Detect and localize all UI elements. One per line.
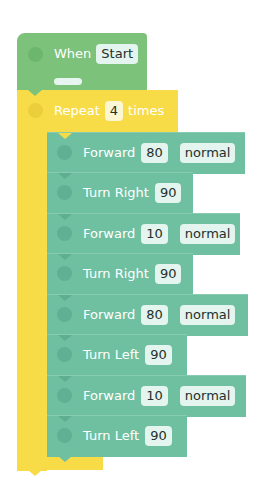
block-handle-icon — [57, 266, 72, 281]
speed-dropdown[interactable]: normal — [180, 224, 236, 244]
connector-notch-icon — [58, 173, 72, 179]
block-handle-icon — [28, 47, 43, 62]
step-label: Turn Left — [83, 345, 139, 365]
speed-dropdown[interactable]: normal — [180, 143, 236, 163]
step-label: Turn Left — [83, 426, 139, 446]
connector-notch-icon — [58, 416, 72, 422]
step-value-field[interactable]: 90 — [155, 183, 182, 203]
when-label: When — [54, 44, 91, 64]
speed-dropdown[interactable]: normal — [180, 305, 236, 325]
block-handle-icon — [57, 428, 72, 443]
connector-notch-icon — [58, 295, 72, 301]
step-block[interactable]: Turn Right90 — [47, 253, 193, 295]
hat-collapse-pill[interactable] — [54, 78, 82, 85]
step-block[interactable]: Forward80normal — [47, 294, 248, 336]
connector-tab-icon — [58, 456, 72, 462]
step-value-field[interactable]: 90 — [155, 264, 182, 284]
speed-dropdown[interactable]: normal — [180, 386, 236, 406]
connector-notch-icon — [58, 254, 72, 260]
connector-tab-icon — [28, 470, 42, 476]
connector-notch-icon — [58, 376, 72, 382]
block-handle-icon — [57, 307, 72, 322]
block-handle-icon — [57, 185, 72, 200]
block-handle-icon — [57, 145, 72, 160]
step-block[interactable]: Forward10normal — [47, 213, 240, 255]
connector-notch-icon — [28, 90, 42, 96]
step-block[interactable]: Forward80normal — [47, 132, 245, 174]
step-block[interactable]: Turn Left90 — [47, 415, 187, 457]
block-handle-icon — [28, 103, 43, 118]
step-value-field[interactable]: 90 — [145, 345, 172, 365]
connector-notch-icon — [58, 133, 72, 139]
step-value-field[interactable]: 80 — [141, 143, 168, 163]
block-handle-icon — [57, 347, 72, 362]
step-label: Forward — [83, 386, 135, 406]
connector-notch-icon — [58, 214, 72, 220]
step-label: Forward — [83, 224, 135, 244]
step-label: Forward — [83, 305, 135, 325]
step-value-field[interactable]: 90 — [145, 426, 172, 446]
connector-notch-icon — [58, 335, 72, 341]
repeat-label: Repeat — [54, 101, 100, 121]
step-value-field[interactable]: 10 — [141, 224, 168, 244]
repeat-block-arm — [17, 131, 47, 471]
block-handle-icon — [57, 226, 72, 241]
when-start-block[interactable]: When Start — [17, 33, 147, 91]
step-block[interactable]: Turn Left90 — [47, 334, 187, 376]
step-block[interactable]: Turn Right90 — [47, 172, 193, 214]
step-value-field[interactable]: 80 — [141, 305, 168, 325]
step-label: Turn Right — [83, 183, 149, 203]
times-label: times — [128, 101, 164, 121]
repeat-count-field[interactable]: 4 — [105, 101, 123, 121]
step-label: Turn Right — [83, 264, 149, 284]
repeat-block[interactable]: Repeat 4 times — [17, 90, 178, 132]
block-handle-icon — [57, 388, 72, 403]
step-value-field[interactable]: 10 — [141, 386, 168, 406]
trigger-field[interactable]: Start — [96, 44, 138, 64]
step-label: Forward — [83, 143, 135, 163]
step-block[interactable]: Forward10normal — [47, 375, 246, 417]
